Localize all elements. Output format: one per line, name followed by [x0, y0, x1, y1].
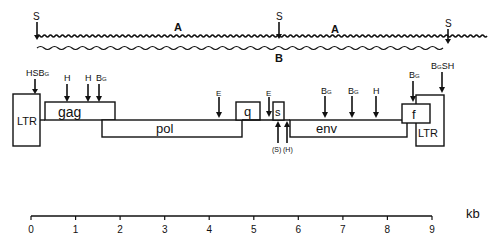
restriction-site-labels: HSBG H H BG E E BG BG H BG BGSH: [26, 61, 454, 98]
arrowhead-icon: [445, 39, 451, 44]
arrowhead-icon: [216, 112, 222, 118]
restriction-sites-below: [275, 121, 290, 143]
arrowhead-icon: [266, 111, 272, 117]
site-label-s-bracket: (S): [272, 146, 281, 154]
fragment-b-label: B: [275, 52, 283, 64]
site-label: E: [266, 89, 271, 98]
site-label: E: [216, 89, 221, 98]
scale-tick-label: 4: [206, 224, 212, 235]
q-label: q: [244, 104, 251, 119]
env-label: env: [316, 121, 337, 136]
env-box: [290, 120, 407, 137]
arrowhead-icon: [349, 112, 355, 118]
scale-tick-label: 5: [251, 224, 257, 235]
site-label: BG: [96, 73, 107, 83]
arrowhead-icon: [373, 112, 379, 118]
f-box: [402, 104, 430, 123]
scale-tick-label: 9: [429, 224, 435, 235]
fragment-map: S S S A A B: [33, 11, 487, 64]
site-label: BG: [409, 70, 420, 80]
scale-tick-label: 6: [296, 224, 302, 235]
ltr-left-label: LTR: [17, 115, 37, 127]
site-label: HSBG: [26, 68, 50, 78]
site-label: BGSH: [431, 61, 454, 71]
scale-tick-label: 0: [28, 224, 34, 235]
fragment-a-label-2: A: [331, 23, 339, 35]
proviral-genome-map: S S S A A B LTR gag pol q s env: [0, 0, 493, 245]
fragment-b-line: [37, 47, 443, 50]
site-label-s-2: S: [276, 11, 283, 22]
ltr-right-label: LTR: [418, 127, 438, 139]
arrowhead-icon: [275, 121, 281, 127]
fragment-a-label-1: A: [174, 21, 182, 33]
arrowhead-icon: [85, 96, 91, 102]
site-label-s-3: S: [445, 18, 452, 29]
f-label: f: [412, 107, 416, 122]
arrowhead-icon: [410, 96, 416, 102]
pol-label: pol: [156, 121, 173, 136]
scale-bar: 0 1 2 3 4 5 6 7 8 9 kb: [28, 206, 480, 235]
site-label-h-bracket: (H): [283, 146, 293, 154]
s-label: s: [275, 106, 281, 118]
site-label: H: [85, 73, 92, 83]
scale-tick-label: 3: [162, 224, 168, 235]
arrowhead-icon: [96, 96, 102, 102]
arrowhead-icon: [32, 89, 38, 94]
site-label: BG: [348, 86, 359, 96]
fragment-a-line: [37, 35, 487, 37]
scale-tick-label: 1: [73, 224, 79, 235]
arrowhead-icon: [284, 121, 290, 127]
gag-label: gag: [58, 104, 81, 120]
site-label: H: [64, 73, 71, 83]
arrowhead-icon: [322, 112, 328, 118]
scale-unit-label: kb: [466, 206, 480, 221]
scale-tick-label: 2: [117, 224, 123, 235]
genome-blocks: [13, 94, 444, 146]
scale-tick-label: 8: [385, 224, 391, 235]
site-label: BG: [321, 86, 332, 96]
arrowhead-icon: [64, 96, 70, 102]
site-label: H: [373, 86, 380, 96]
scale-tick-label: 7: [340, 224, 346, 235]
arrowhead-icon: [439, 87, 445, 93]
site-label-s-1: S: [33, 11, 40, 22]
